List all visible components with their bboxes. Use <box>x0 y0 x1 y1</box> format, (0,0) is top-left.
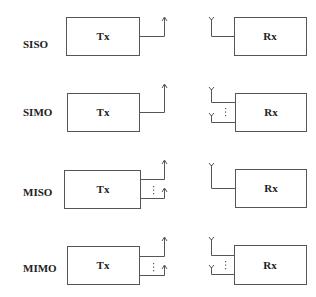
row-label-miso: MISO <box>23 186 53 198</box>
y-fork-antenna-icon <box>209 163 214 166</box>
vertical-ellipsis-icon <box>225 108 226 116</box>
y-fork-antenna-icon <box>209 113 214 116</box>
tx-feed-line-1 <box>141 161 165 180</box>
y-fork-antenna-icon <box>209 17 214 20</box>
rx-label: Rx <box>264 182 278 194</box>
antenna-configuration-diagram: SISO Tx Rx SIMO Tx <box>0 0 316 297</box>
tx-label: Tx <box>97 183 110 195</box>
vertical-ellipsis-icon <box>225 261 226 269</box>
rx-label: Rx <box>263 259 277 271</box>
rx-feed-line-1 <box>212 239 235 256</box>
rx-block: Rx <box>236 94 307 132</box>
rx-block: Rx <box>235 246 307 285</box>
tx-feed-line-2 <box>141 189 165 199</box>
rx-block: Rx <box>235 18 307 56</box>
rx-label: Rx <box>263 30 277 42</box>
rx-block: Rx <box>236 170 307 208</box>
tx-block: Tx <box>68 247 140 285</box>
tx-feed-line-2 <box>140 266 165 276</box>
row-miso: MISO Tx Rx <box>23 160 307 209</box>
rx-feed-line <box>212 19 235 37</box>
y-fork-antenna-icon <box>209 87 214 90</box>
row-label-siso: SISO <box>23 38 49 50</box>
rx-feed-line-2 <box>212 267 235 275</box>
tx-block: Tx <box>68 94 140 132</box>
rx-label: Rx <box>264 106 278 118</box>
row-simo: SIMO Tx Rx <box>23 84 307 132</box>
row-label-mimo: MIMO <box>23 262 57 274</box>
tx-feed-line <box>140 18 165 37</box>
vertical-ellipsis-icon <box>153 186 154 194</box>
y-fork-antenna-icon <box>209 265 214 268</box>
row-mimo: MIMO Tx <box>23 237 307 285</box>
rx-feed-line-2 <box>212 115 236 123</box>
tx-feed-line <box>140 85 165 113</box>
y-fork-antenna-icon <box>209 237 214 240</box>
rx-feed-line-1 <box>212 89 236 103</box>
row-siso: SISO Tx Rx <box>23 17 307 56</box>
vertical-ellipsis-icon <box>153 263 154 271</box>
tx-label: Tx <box>97 30 110 42</box>
tx-block: Tx <box>65 171 141 209</box>
row-label-simo: SIMO <box>23 106 53 118</box>
tx-label: Tx <box>97 106 110 118</box>
tx-feed-line-1 <box>140 238 165 257</box>
rx-feed-line <box>212 165 236 189</box>
tx-label: Tx <box>97 259 110 271</box>
tx-block: Tx <box>67 18 140 56</box>
